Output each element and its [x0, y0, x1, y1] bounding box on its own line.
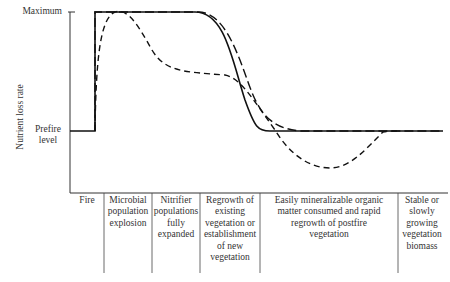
- phase-stable-biomass: Stable or slowly growing vegetation biom…: [398, 195, 446, 252]
- phase-organic-matter-consumed: Easily mineralizable organic matter cons…: [272, 195, 386, 241]
- phase-regrowth: Regrowth of existing vegetation or estab…: [200, 195, 260, 263]
- phase-fire: Fire: [70, 195, 104, 206]
- prefire-level-label: Prefire level: [30, 124, 66, 146]
- maximum-label: Maximum: [10, 6, 62, 17]
- solid-curve: [70, 12, 443, 131]
- phase-microbial-explosion: Microbial population explosion: [104, 195, 152, 229]
- y-axis-label: Nutrient loss rate: [15, 67, 25, 167]
- phase-nitrifier-expanded: Nitrifier populations fully expanded: [152, 195, 200, 241]
- long-dash-curve: [95, 12, 443, 131]
- short-dash-curve: [95, 11, 400, 168]
